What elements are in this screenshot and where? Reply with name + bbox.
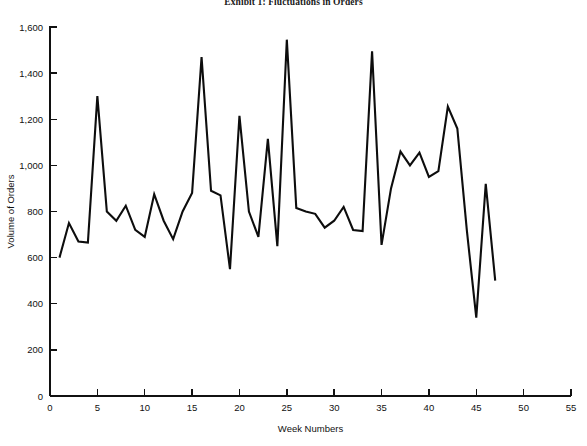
x-tick-label: 30	[329, 402, 340, 413]
chart-figure: Exhibit 1: Fluctuations in Orders 020040…	[0, 0, 587, 446]
line-chart-plot: 02004006008001,0001,2001,4001,600 051015…	[0, 0, 587, 446]
x-axis-ticks: 0510152025303540455055	[47, 389, 576, 413]
x-tick-label: 45	[471, 402, 482, 413]
y-tick-label: 600	[27, 252, 43, 263]
x-tick-label: 35	[376, 402, 387, 413]
y-axis-ticks: 02004006008001,0001,2001,4001,600	[19, 22, 57, 402]
x-axis-label: Week Numbers	[278, 423, 344, 434]
x-tick-label: 25	[282, 402, 293, 413]
y-tick-label: 200	[27, 344, 43, 355]
x-tick-label: 50	[518, 402, 529, 413]
y-axis-label: Volume of Orders	[5, 174, 16, 248]
y-tick-label: 0	[38, 391, 43, 402]
y-tick-label: 1,600	[19, 22, 43, 33]
x-tick-label: 10	[139, 402, 150, 413]
y-tick-label: 1,200	[19, 114, 43, 125]
y-tick-label: 400	[27, 298, 43, 309]
x-tick-label: 15	[187, 402, 198, 413]
y-tick-label: 1,400	[19, 68, 43, 79]
y-tick-label: 800	[27, 206, 43, 217]
x-tick-label: 5	[95, 402, 100, 413]
data-series-line	[59, 40, 495, 318]
x-tick-label: 0	[47, 402, 52, 413]
y-tick-label: 1,000	[19, 160, 43, 171]
x-tick-label: 20	[234, 402, 245, 413]
x-tick-label: 55	[566, 402, 577, 413]
x-tick-label: 40	[424, 402, 435, 413]
